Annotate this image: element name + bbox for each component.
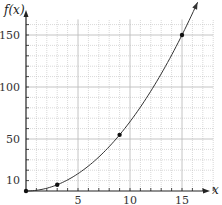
x-tick-label-15: 15 [175, 194, 189, 205]
chart: f(x) x 5 10 15 10 50 100 150 [0, 0, 222, 205]
y-tick-label-150: 150 [0, 29, 20, 42]
y-tick-label-50: 50 [6, 133, 20, 146]
y-tick-label-10: 10 [6, 174, 20, 187]
data-points [24, 33, 184, 193]
data-point [117, 133, 121, 137]
data-point [180, 33, 184, 37]
x-tick-label-5: 5 [75, 194, 82, 205]
grid-lines [26, 19, 213, 191]
y-tick-label-100: 100 [0, 81, 20, 94]
y-axis-title: f(x) [3, 3, 25, 17]
x-tick-label-10: 10 [123, 194, 137, 205]
data-point [24, 189, 28, 193]
x-axis-title: x [212, 183, 219, 197]
data-point [55, 183, 59, 187]
